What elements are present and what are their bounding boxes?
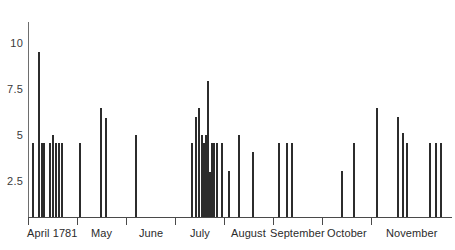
x-axis-line <box>28 217 452 218</box>
x-tick-label-july: July <box>190 227 210 239</box>
x-tick-label-may: May <box>91 227 112 239</box>
bar <box>252 152 254 217</box>
x-tick-mark <box>273 217 274 225</box>
bar <box>38 52 40 217</box>
bar <box>52 135 54 217</box>
bar <box>191 143 193 217</box>
bar <box>195 117 197 217</box>
y-axis-line <box>28 22 29 218</box>
bar <box>402 133 404 217</box>
chart-container: 10 7.5 5 2.5 April 1781MayJuneJulyAugust… <box>0 0 455 250</box>
bar <box>55 143 57 217</box>
bar <box>58 143 60 217</box>
plot-area: 10 7.5 5 2.5 April 1781MayJuneJulyAugust… <box>0 0 455 250</box>
bar <box>238 135 240 217</box>
bar <box>353 143 355 217</box>
y-tick-label-10: 10 <box>0 37 23 49</box>
x-tick-mark <box>224 217 225 225</box>
x-tick-mark <box>371 217 372 225</box>
bar <box>397 117 399 217</box>
bar <box>429 143 431 217</box>
x-tick-mark <box>126 217 127 225</box>
bar <box>43 143 45 217</box>
x-tick-mark <box>175 217 176 225</box>
bar <box>135 135 137 217</box>
x-tick-label-june: June <box>139 227 163 239</box>
bar <box>278 143 280 217</box>
bar <box>32 143 34 217</box>
bar <box>406 143 408 217</box>
x-tick-label-april-1781: April 1781 <box>27 227 78 239</box>
bar <box>376 108 378 217</box>
bar <box>49 143 51 217</box>
bar <box>198 108 200 217</box>
x-tick-label-august: August <box>231 227 266 239</box>
bar <box>286 143 288 217</box>
x-tick-mark <box>28 217 29 225</box>
bar <box>228 171 230 217</box>
x-tick-mark <box>77 217 78 225</box>
bar <box>79 143 81 217</box>
bar <box>291 143 293 217</box>
y-tick-label-5: 5 <box>0 129 23 141</box>
x-tick-label-october: October <box>327 227 367 239</box>
x-tick-mark <box>322 217 323 225</box>
bar <box>105 118 107 217</box>
bar <box>100 108 102 217</box>
bar <box>213 143 215 217</box>
bar <box>341 171 343 217</box>
y-tick-label-2-5: 2.5 <box>0 175 23 187</box>
bar <box>435 143 437 217</box>
x-tick-label-november: November <box>386 227 438 239</box>
y-tick-label-7-5: 7.5 <box>0 83 23 95</box>
bar <box>61 143 63 217</box>
x-tick-label-september: September <box>270 227 325 239</box>
bar <box>216 143 218 217</box>
bar <box>440 143 442 217</box>
bar <box>221 143 223 217</box>
